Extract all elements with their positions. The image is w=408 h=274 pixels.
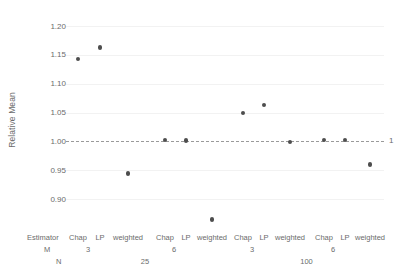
- m-level-label: 3: [250, 245, 254, 254]
- gridline: [66, 55, 384, 56]
- reference-line-label: 1: [389, 137, 393, 145]
- y-axis-tick-label: 1.10: [32, 79, 66, 88]
- estimator-label: weighted: [275, 233, 305, 242]
- row-header-estimator: Estimator: [27, 233, 59, 242]
- gridline: [66, 113, 384, 114]
- gridline: [66, 84, 384, 85]
- gridline: [66, 170, 384, 171]
- reference-line: [66, 141, 384, 142]
- data-point: [288, 140, 293, 145]
- n-level-label: 25: [141, 257, 149, 266]
- y-axis-tick-label: 1.15: [32, 50, 66, 59]
- estimator-label: Chap: [69, 233, 87, 242]
- data-point: [184, 138, 189, 143]
- y-axis-tick-label: 0.95: [32, 166, 66, 175]
- estimator-label: weighted: [197, 233, 227, 242]
- relative-mean-scatter-chart: Relative Mean 0.900.951.001.051.101.151.…: [0, 0, 408, 274]
- y-axis-tick-label: 1.20: [32, 22, 66, 31]
- estimator-label: LP: [259, 233, 268, 242]
- m-level-label: 6: [331, 245, 335, 254]
- estimator-label: LP: [95, 233, 104, 242]
- estimator-label: Chap: [315, 233, 333, 242]
- estimator-label: weighted: [113, 233, 143, 242]
- estimator-label: Chap: [156, 233, 174, 242]
- data-point: [241, 111, 246, 116]
- gridline: [66, 26, 384, 27]
- data-point: [262, 103, 267, 108]
- data-point: [368, 162, 373, 167]
- gridline: [66, 199, 384, 200]
- y-axis-tick-label: 0.90: [32, 195, 66, 204]
- data-point: [76, 57, 81, 62]
- estimator-label: Chap: [234, 233, 252, 242]
- y-axis-tick-label: 1.05: [32, 108, 66, 117]
- data-point: [126, 171, 131, 176]
- data-point: [210, 217, 215, 222]
- plot-area: 1: [66, 20, 384, 228]
- y-axis-tick-label: 1.00: [32, 137, 66, 146]
- x-axis-label-table: Estimator M N ChapLPweightedChapLPweight…: [0, 228, 408, 274]
- row-header-n: N: [56, 257, 61, 266]
- m-level-label: 6: [172, 245, 176, 254]
- estimator-label: LP: [340, 233, 349, 242]
- data-point: [98, 45, 103, 50]
- estimator-label: weighted: [355, 233, 385, 242]
- m-level-label: 3: [86, 245, 90, 254]
- n-level-label: 100: [300, 257, 313, 266]
- row-header-m: M: [44, 245, 50, 254]
- estimator-label: LP: [181, 233, 190, 242]
